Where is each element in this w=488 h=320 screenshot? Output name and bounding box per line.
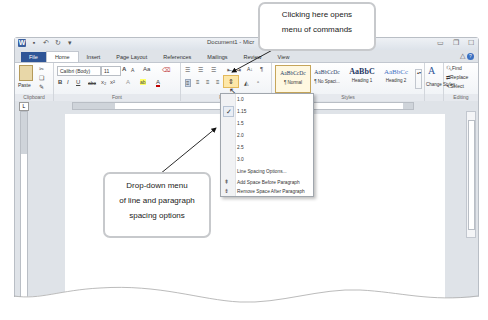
annotation-arrows — [0, 0, 488, 320]
callout-top: Clicking here opens menu of commands — [258, 2, 376, 51]
callout-left: Drop-down menu of line and paragraph spa… — [103, 172, 211, 238]
